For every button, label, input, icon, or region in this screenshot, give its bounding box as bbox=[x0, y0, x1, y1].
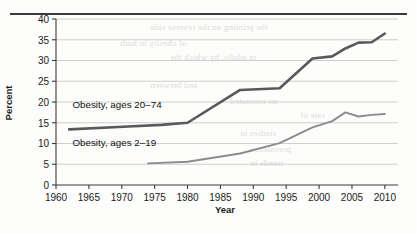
x-tick-label: 1980 bbox=[176, 192, 199, 203]
x-tick-label: 1985 bbox=[209, 192, 232, 203]
y-tick-label: 5 bbox=[43, 159, 49, 170]
x-axis-ticks: 1960196519701975198019851990199520002005… bbox=[45, 185, 397, 203]
y-tick-label: 35 bbox=[38, 35, 50, 46]
x-tick-label: 2010 bbox=[374, 192, 397, 203]
y-axis-ticks: 0510152025303540 bbox=[38, 14, 56, 191]
series-annotations: Obesity, ages 20–74Obesity, ages 2–19 bbox=[72, 99, 162, 149]
x-tick-label: 2005 bbox=[341, 192, 364, 203]
y-tick-label: 40 bbox=[38, 14, 50, 25]
y-tick-label: 30 bbox=[38, 55, 50, 66]
y-tick-label: 25 bbox=[38, 76, 50, 87]
x-axis-title: Year bbox=[215, 204, 235, 215]
x-tick-label: 2000 bbox=[308, 192, 331, 203]
x-tick-label: 1970 bbox=[111, 192, 134, 203]
series-annotation-youth: Obesity, ages 2–19 bbox=[72, 137, 156, 148]
x-tick-label: 1965 bbox=[78, 192, 101, 203]
x-tick-label: 1960 bbox=[45, 192, 68, 203]
line-chart: 0510152025303540 19601965197019751980198… bbox=[0, 0, 417, 234]
y-axis-title: Percent bbox=[3, 85, 14, 121]
y-tick-label: 0 bbox=[43, 180, 49, 191]
x-tick-label: 1995 bbox=[275, 192, 298, 203]
series-annotation-adult: Obesity, ages 20–74 bbox=[72, 99, 162, 110]
obesity-trend-figure: the printing on the reverse sideof obesi… bbox=[0, 0, 417, 234]
x-tick-label: 1975 bbox=[144, 192, 167, 203]
series-line-youth bbox=[148, 112, 385, 163]
y-tick-label: 15 bbox=[38, 118, 50, 129]
y-tick-label: 20 bbox=[38, 97, 50, 108]
x-tick-label: 1990 bbox=[242, 192, 265, 203]
y-tick-label: 10 bbox=[38, 138, 50, 149]
